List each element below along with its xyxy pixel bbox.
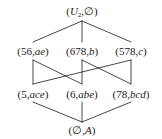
edge-78-bottom (82, 102, 131, 122)
edge-top-56 (33, 21, 82, 42)
node-top: (U2,∅) (66, 6, 98, 19)
edge-56-6 (33, 60, 82, 84)
node-extent: 78 (116, 88, 127, 100)
concept-lattice-diagram: (U2,∅) (56,ae) (678,b) (578,c) (5,ace) (… (0, 0, 162, 139)
edge-678-78 (82, 60, 131, 84)
node-78-bcd: (78,bcd) (113, 89, 150, 100)
node-bottom: (∅,A) (69, 125, 96, 136)
node-intent: ae (35, 45, 45, 57)
node-intent: ∅ (84, 5, 94, 17)
node-intent: abe (78, 88, 94, 100)
node-5-ace: (5,ace) (18, 89, 49, 100)
node-intent: ace (29, 88, 44, 100)
paren-close: ) (92, 124, 96, 136)
node-extent: 578 (119, 45, 136, 57)
node-extent: 56 (21, 45, 32, 57)
node-56-ae: (56,ae) (17, 46, 48, 57)
node-578-c: (578,c) (115, 46, 146, 57)
edge-top-578 (82, 21, 131, 42)
lattice-edges (0, 0, 162, 139)
node-extent: 678 (70, 45, 87, 57)
paren-close: ) (146, 88, 150, 100)
paren-close: ) (94, 45, 98, 57)
paren-close: ) (94, 88, 98, 100)
node-extent: U (70, 5, 78, 17)
node-intent: bcd (130, 88, 146, 100)
paren-close: ) (45, 88, 49, 100)
paren-close: ) (143, 45, 147, 57)
paren-close: ) (94, 5, 98, 17)
paren-close: ) (45, 45, 49, 57)
node-extent: ∅ (72, 124, 82, 136)
edge-5-bottom (33, 102, 82, 122)
node-6-abe: (6,abe) (66, 89, 97, 100)
node-678-b: (678,b) (66, 46, 98, 57)
